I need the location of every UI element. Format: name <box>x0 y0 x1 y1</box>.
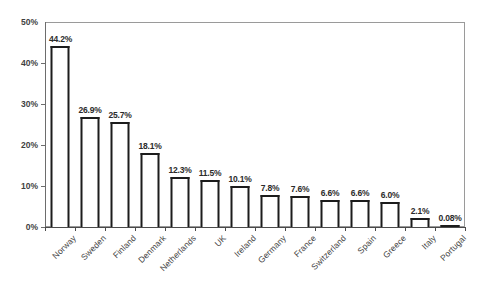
x-axis-category-label: Spain <box>355 233 378 256</box>
x-axis-category-label: Sweden <box>78 233 107 262</box>
bar-chart: 0%10%20%30%40%50% 44.2%26.9%25.7%18.1%12… <box>0 0 477 291</box>
x-axis-category-label: Norway <box>50 233 78 261</box>
x-axis-category-label: UK <box>212 233 228 249</box>
x-axis-category-label: Italy <box>419 233 437 251</box>
x-axis-category-label: Finland <box>110 233 137 260</box>
x-axis-category-label: Portugal <box>438 233 468 263</box>
x-axis-category-labels: NorwaySwedenFinlandDenmarkNetherlandsUKI… <box>0 0 477 291</box>
x-axis-category-label: Ireland <box>232 233 258 259</box>
x-axis-category-label: France <box>291 233 317 259</box>
x-axis-category-label: Greece <box>380 233 407 260</box>
x-axis-category-label: Germany <box>255 233 287 265</box>
